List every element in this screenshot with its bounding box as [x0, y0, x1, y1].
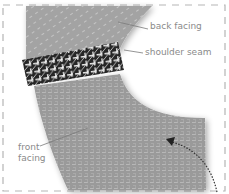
label-back-facing: back facing [150, 21, 202, 32]
label-front-facing-line1: front [18, 142, 39, 153]
facing-diagram: back facing shoulder seam front facing [0, 0, 229, 194]
front-facing-panel [34, 74, 206, 190]
label-shoulder-seam: shoulder seam [145, 47, 211, 58]
shoulder-seam-leader [124, 50, 143, 53]
label-front-facing-line2: facing [18, 153, 46, 164]
